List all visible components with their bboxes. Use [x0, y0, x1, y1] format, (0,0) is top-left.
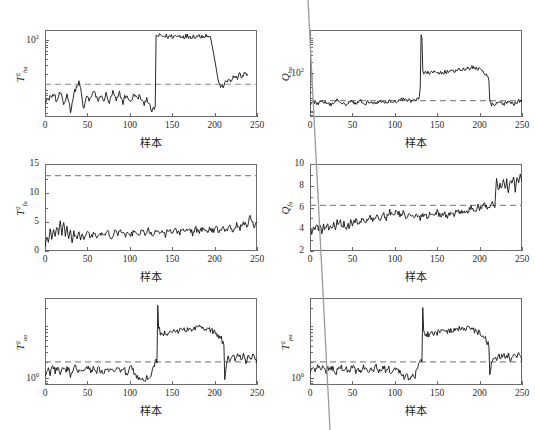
y-minor-tickmark — [310, 362, 313, 363]
x-tick-label: 50 — [348, 389, 358, 399]
x-tickmark — [522, 381, 523, 385]
y-minor-tickmark — [310, 383, 313, 384]
x-tickmark — [480, 381, 481, 385]
y-minor-tickmark — [310, 332, 313, 333]
y-minor-tickmark — [310, 346, 313, 347]
y-tickmark — [310, 378, 314, 379]
x-tick-label: 0 — [308, 389, 313, 399]
plot-area-t2-pa-bottom-right — [0, 0, 535, 430]
figure-canvas: 050100150200250102样本T2ba0501001502002501… — [0, 0, 535, 430]
x-axis-caption: 样本 — [405, 402, 427, 418]
y-minor-tickmark — [310, 381, 313, 382]
y-axis-caption: T2pa — [279, 322, 294, 362]
x-tick-label: 200 — [472, 389, 486, 399]
x-tickmark — [395, 381, 396, 385]
data-series-T2_pa — [310, 308, 522, 381]
y-minor-tickmark — [310, 329, 313, 330]
x-tick-label: 250 — [515, 389, 529, 399]
x-tickmark — [437, 381, 438, 385]
y-tick-label: 100 — [0, 372, 304, 384]
y-minor-tickmark — [310, 340, 313, 341]
y-minor-tickmark — [310, 336, 313, 337]
x-tick-label: 100 — [388, 389, 402, 399]
x-tick-label: 150 — [430, 389, 444, 399]
y-minor-tickmark — [310, 326, 313, 327]
y-minor-tickmark — [310, 352, 313, 353]
chart-panel-t2-pa-bottom-right: 050100150200250100样本T2pa — [0, 0, 535, 430]
x-tickmark — [352, 381, 353, 385]
y-minor-tickmark — [310, 308, 313, 309]
